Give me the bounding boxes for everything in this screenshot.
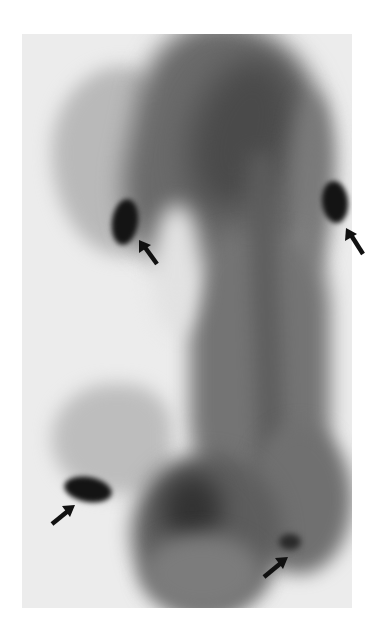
arrow-icon: [345, 228, 363, 254]
arrow-icon: [264, 557, 288, 577]
arrow-overlay: [0, 0, 385, 620]
arrow-icon: [52, 505, 75, 524]
arrow-icon: [139, 240, 157, 264]
